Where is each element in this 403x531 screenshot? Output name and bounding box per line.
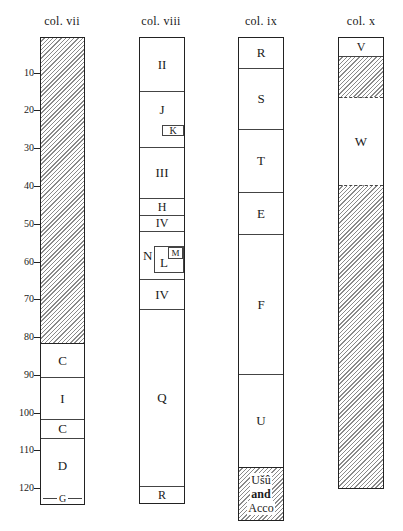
segment-IV: IV	[140, 279, 184, 309]
hatched-segment	[41, 38, 84, 343]
tick-90: 90	[0, 369, 40, 381]
segment-T: T	[239, 129, 283, 192]
column-ix: R S T E F U Ušû and Acco	[238, 37, 284, 521]
segment-G: G	[41, 493, 84, 504]
hatched-segment	[339, 56, 383, 98]
hatched-segment	[339, 185, 383, 488]
tick-70: 70	[0, 293, 40, 305]
segment-IV: IV	[140, 215, 184, 231]
segment-I: I	[41, 377, 84, 419]
segment-S: S	[239, 68, 283, 129]
segment-N: N L M	[140, 231, 184, 279]
segment-J: J K	[140, 91, 184, 147]
column-x: V W	[338, 37, 384, 489]
column-vii: C I C D G	[40, 37, 85, 505]
inset-M: M	[168, 247, 183, 259]
tick-100: 100	[0, 407, 40, 419]
tick-120: 120	[0, 482, 40, 494]
segment-Q: Q	[140, 309, 184, 486]
segment-III: III	[140, 147, 184, 198]
segment-H: H	[140, 198, 184, 215]
tick-10: 10	[0, 67, 40, 79]
column-viii: II J K III H IV N L M IV Q R	[139, 37, 185, 504]
tick-50: 50	[0, 218, 40, 230]
segment-C: C	[41, 419, 84, 438]
segment-F: F	[239, 234, 283, 374]
segment-C: C	[41, 343, 84, 377]
tick-80: 80	[0, 331, 40, 343]
segment-II: II	[140, 38, 184, 91]
col-ix-title: col. ix	[231, 14, 291, 29]
segment-U: U	[239, 374, 283, 467]
tick-60: 60	[0, 256, 40, 268]
col-vii-title: col. vii	[32, 14, 92, 29]
segment-R: R	[239, 38, 283, 68]
segment-V: V	[339, 38, 383, 56]
segment-E: E	[239, 192, 283, 234]
segment-usu-and-acco: Ušû and Acco	[239, 467, 283, 520]
inset-L: L M	[154, 246, 184, 273]
tick-40: 40	[0, 180, 40, 192]
segment-R: R	[140, 486, 184, 503]
segment-D: D	[41, 438, 84, 493]
inset-K: K	[162, 125, 184, 136]
col-viii-title: col. viii	[131, 14, 191, 29]
tick-110: 110	[0, 444, 40, 456]
tick-30: 30	[0, 142, 40, 154]
segment-W: W	[339, 98, 383, 185]
col-x-title: col. x	[331, 14, 391, 29]
tick-20: 20	[0, 104, 40, 116]
